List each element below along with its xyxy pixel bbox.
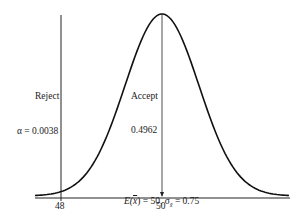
reject-label: Reject (35, 92, 59, 102)
normal-curve-plot (0, 0, 305, 216)
caption-line: E(x) = 50, σx̄ = 0.75 (124, 197, 199, 208)
tick-48: 48 (55, 202, 65, 212)
caption-e: E( (124, 196, 133, 206)
accept-label: Accept (131, 92, 158, 102)
caption-right: = 0.75 (173, 196, 200, 206)
alpha-label: α = 0.0038 (17, 127, 58, 137)
caption-mid: ) = 50, σ (137, 196, 170, 206)
accept-probability-label: 0.4962 (131, 126, 157, 136)
